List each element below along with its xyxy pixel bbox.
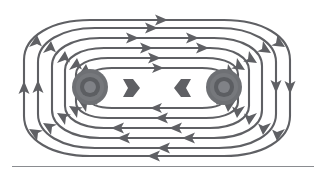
right-pole-core: [218, 81, 230, 93]
right-pole: [206, 69, 242, 105]
field-loop-path: [88, 68, 226, 108]
flow-arrow-left-upper: [69, 58, 82, 70]
field-line-diagram: [0, 0, 314, 173]
left-pole: [72, 69, 108, 105]
field-loop-outermost: [19, 15, 296, 162]
field-loop-path: [24, 20, 290, 156]
flow-arrow-left-upper: [43, 41, 56, 53]
baseline-rule: [12, 166, 314, 167]
flow-arrow-right-lower: [258, 123, 271, 135]
field-loop-innermost: [88, 63, 226, 113]
field-loop-5: [33, 23, 282, 154]
flow-arrow-left-lower: [43, 123, 57, 135]
field-line-figure: [0, 0, 314, 173]
flow-arrow-right-upper: [257, 41, 271, 53]
left-pole-core: [84, 81, 96, 93]
flow-arrow-right-lower: [232, 106, 245, 118]
right-dipole-arrow-icon: [174, 79, 191, 97]
left-dipole-arrow-icon: [123, 79, 140, 97]
